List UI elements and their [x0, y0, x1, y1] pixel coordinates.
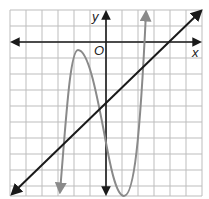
cubic-curve — [60, 12, 146, 196]
y-axis-label: y — [91, 9, 100, 24]
x-axis-label: x — [191, 45, 199, 60]
graph: y x O — [0, 0, 209, 199]
origin-label: O — [94, 43, 104, 58]
